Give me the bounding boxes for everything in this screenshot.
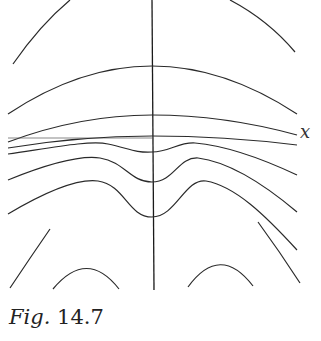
figure-caption: Fig. 14.7 — [9, 305, 104, 329]
small-left-arc — [53, 269, 119, 290]
small-right-arc — [188, 265, 253, 287]
level-curve-7 — [8, 181, 297, 250]
top-right-arc — [230, 0, 295, 52]
figure-14-7: x Fig. 14.7 — [0, 0, 321, 341]
vertical-axis — [152, 0, 154, 290]
x-axis-label: x — [300, 121, 310, 142]
caption-number: 14.7 — [57, 305, 104, 329]
curve-family-diagram — [0, 0, 321, 341]
outer-left-line — [10, 229, 50, 288]
caption-prefix: Fig. — [9, 305, 50, 329]
top-left-arc — [13, 0, 70, 64]
